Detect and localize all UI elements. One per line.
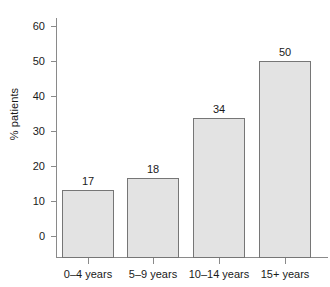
x-tick-10-14-years [219,258,220,264]
y-tick-20 [51,166,57,167]
bar-value-15-plus-years: 50 [255,47,315,58]
bar-10-14-years[interactable] [193,118,245,258]
y-tick-label-60: 60 [5,21,45,32]
x-label-15-plus-years: 15+ years [230,268,330,280]
y-tick-50 [51,61,57,62]
y-tick-label-0: 0 [5,231,45,242]
y-tick-label-10: 10 [5,196,45,207]
y-tick-30 [51,131,57,132]
y-tick-label-30: 30 [5,126,45,137]
y-axis-title: % patients [8,69,20,159]
bar-5-9-years[interactable] [127,178,179,258]
bar-value-0-4-years: 17 [58,176,118,187]
y-tick-label-40: 40 [5,91,45,102]
y-axis-line [56,18,57,257]
bar-0-4-years[interactable] [62,190,114,258]
x-tick-15-plus-years [285,258,286,264]
bar-value-10-14-years: 34 [189,104,249,115]
bar-value-5-9-years: 18 [123,164,183,175]
y-tick-60 [51,26,57,27]
bar-15-plus-years[interactable] [259,61,311,258]
bar-chart: % patients 60 50 40 30 20 10 0 17 18 34 … [0,0,330,287]
x-tick-5-9-years [153,258,154,264]
y-tick-10 [51,201,57,202]
y-tick-label-20: 20 [5,161,45,172]
y-tick-0 [51,236,57,237]
y-tick-label-50: 50 [5,56,45,67]
x-tick-0-4-years [88,258,89,264]
y-tick-40 [51,96,57,97]
